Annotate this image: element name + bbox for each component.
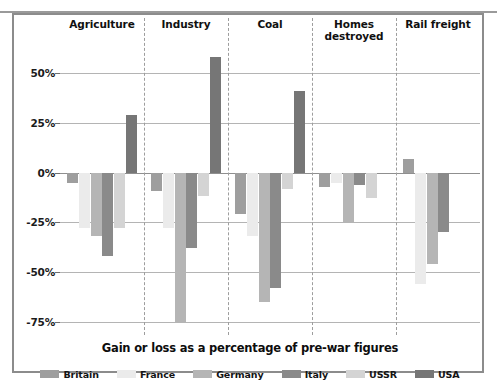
plot-area: 50%25%0%-25%-50%-75%AgricultureIndustryC… xyxy=(60,48,480,335)
bar-coal-france xyxy=(247,173,258,237)
legend-label: France xyxy=(140,369,175,380)
bar-coal-usa xyxy=(294,91,305,173)
y-axis-tick-label: 25% xyxy=(30,117,55,129)
bar-agriculture-britain xyxy=(67,173,78,183)
legend-item-france: France xyxy=(117,369,175,380)
y-tickmark xyxy=(55,123,60,124)
y-tickmark xyxy=(55,222,60,223)
legend-label: Germany xyxy=(216,369,264,380)
bar-rail-freight-france xyxy=(415,173,426,285)
group-label-coal: Coal xyxy=(228,19,312,31)
chart-panel: 50%25%0%-25%-50%-75%AgricultureIndustryC… xyxy=(12,13,484,373)
bar-industry-italy xyxy=(186,173,197,249)
legend-item-ussr: USSR xyxy=(346,369,397,380)
bar-agriculture-ussr xyxy=(114,173,125,229)
y-tickmark xyxy=(55,272,60,273)
group-label-rail-freight: Rail freight xyxy=(396,19,480,31)
bar-coal-germany xyxy=(259,173,270,303)
gridline-50 xyxy=(60,73,480,74)
chart-legend: BritainFranceGermanyItalyUSSRUSA xyxy=(14,365,486,383)
group-label-homes-destroyed: Homes destroyed xyxy=(312,19,396,42)
legend-item-italy: Italy xyxy=(282,369,328,380)
bar-agriculture-usa xyxy=(126,115,137,173)
group-separator xyxy=(228,18,229,335)
legend-item-britain: Britain xyxy=(40,369,98,380)
y-tickmark xyxy=(55,322,60,323)
bar-rail-freight-britain xyxy=(403,159,414,173)
bar-homes-destroyed-france xyxy=(331,173,342,183)
bar-industry-britain xyxy=(151,173,162,191)
bar-homes-destroyed-italy xyxy=(354,173,365,185)
bar-industry-usa xyxy=(210,57,221,173)
gridline-25 xyxy=(60,123,480,124)
gridline-neg75 xyxy=(60,322,480,323)
group-separator xyxy=(396,18,397,335)
y-axis-tick-label: 50% xyxy=(30,67,55,79)
bar-homes-destroyed-ussr xyxy=(366,173,377,199)
bar-agriculture-italy xyxy=(102,173,113,257)
bar-coal-britain xyxy=(235,173,246,215)
bar-industry-ussr xyxy=(198,173,209,197)
y-tickmark xyxy=(55,73,60,74)
y-tickmark xyxy=(55,173,60,174)
legend-swatch-france xyxy=(117,370,136,378)
legend-swatch-ussr xyxy=(346,370,365,378)
legend-label: Britain xyxy=(63,369,98,380)
y-axis-tick-label: 0% xyxy=(38,167,55,179)
legend-swatch-germany xyxy=(193,370,212,378)
bar-homes-destroyed-britain xyxy=(319,173,330,187)
group-label-agriculture: Agriculture xyxy=(60,19,144,31)
group-separator xyxy=(144,18,145,335)
group-separator xyxy=(312,18,313,335)
bar-industry-france xyxy=(163,173,174,229)
bar-agriculture-germany xyxy=(91,173,102,237)
legend-label: USA xyxy=(438,369,460,380)
legend-item-usa: USA xyxy=(415,369,460,380)
bar-agriculture-france xyxy=(79,173,90,229)
group-label-industry: Industry xyxy=(144,19,228,31)
legend-label: USSR xyxy=(369,369,397,380)
legend-swatch-usa xyxy=(415,370,434,378)
y-axis-tick-label: -25% xyxy=(26,216,55,228)
legend-label: Italy xyxy=(305,369,328,380)
bar-homes-destroyed-germany xyxy=(343,173,354,223)
legend-swatch-italy xyxy=(282,370,301,378)
bar-coal-ussr xyxy=(282,173,293,189)
chart-figure: 50%25%0%-25%-50%-75%AgricultureIndustryC… xyxy=(0,0,497,385)
bar-coal-italy xyxy=(270,173,281,289)
chart-caption: Gain or loss as a percentage of pre-war … xyxy=(14,341,486,355)
legend-item-germany: Germany xyxy=(193,369,264,380)
bar-industry-germany xyxy=(175,173,186,322)
y-axis-tick-label: -50% xyxy=(26,266,55,278)
y-axis-tick-label: -75% xyxy=(26,316,55,328)
bar-rail-freight-italy xyxy=(438,173,449,233)
legend-swatch-britain xyxy=(40,370,59,378)
bar-rail-freight-germany xyxy=(427,173,438,265)
